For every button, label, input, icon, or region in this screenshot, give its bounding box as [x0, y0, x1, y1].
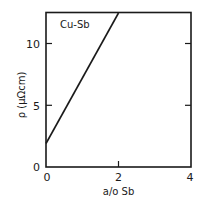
y-axis-label: ρ (μΩcm): [16, 72, 27, 119]
x-axis-label: a/o Sb: [103, 186, 135, 197]
data-line-cu-sb: [46, 13, 119, 144]
chart-canvas: 10 5 0 0 2 4 a/o Sb ρ (μΩcm) Cu-Sb: [0, 0, 203, 204]
plot-frame: [46, 13, 191, 168]
y-tick-label-10: 10: [26, 38, 40, 51]
y-tick-label-5: 5: [33, 100, 40, 113]
x-tick-label-0: 0: [44, 171, 51, 184]
y-tick-label-0: 0: [33, 161, 40, 174]
x-tick-label-4: 4: [187, 171, 194, 184]
x-tick-label-2: 2: [115, 171, 122, 184]
series-annotation: Cu-Sb: [60, 19, 90, 30]
